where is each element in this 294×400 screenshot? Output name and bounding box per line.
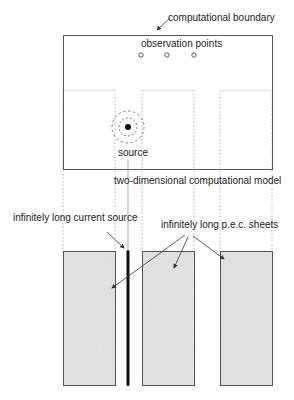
pec-arrow-3 xyxy=(193,236,224,259)
current-source-bar xyxy=(127,250,130,386)
current-source-arrow xyxy=(107,232,124,248)
observation-points xyxy=(139,53,196,57)
source-label: source xyxy=(118,147,148,158)
source-marker xyxy=(112,111,144,143)
observation-point xyxy=(165,53,169,57)
model-label: two-dimensional computational model xyxy=(114,175,281,186)
pec-sheets-label: infinitely long p.e.c. sheets xyxy=(161,219,278,230)
observation-point xyxy=(192,53,196,57)
diagram-canvas xyxy=(0,0,294,400)
pec-cross-sections xyxy=(63,89,272,92)
boundary-label: computational boundary xyxy=(168,12,275,23)
observation-label: observation points xyxy=(141,38,222,49)
current-source-label: infinitely long current source xyxy=(13,212,138,223)
observation-point xyxy=(139,53,143,57)
